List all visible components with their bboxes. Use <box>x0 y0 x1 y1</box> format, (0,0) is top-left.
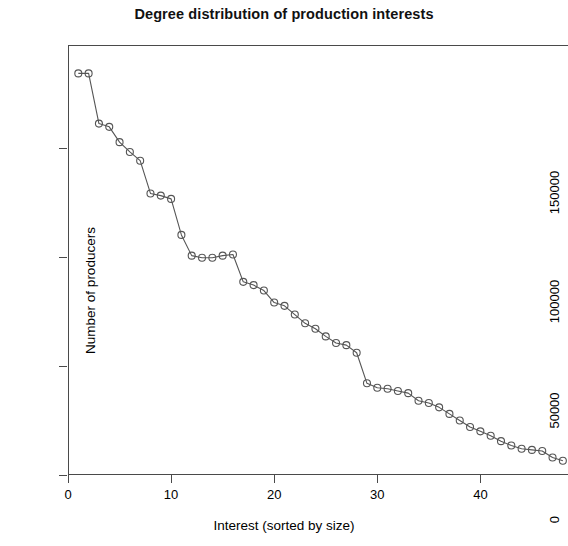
x-tick-mark <box>68 475 69 483</box>
x-tick-mark <box>480 475 481 483</box>
y-tick-label: 0 <box>547 475 562 546</box>
y-tick-mark <box>59 257 67 258</box>
x-tick-label: 0 <box>48 487 88 502</box>
y-tick-mark <box>59 148 67 149</box>
series-polyline <box>78 73 563 460</box>
y-tick-label: 150000 <box>547 147 562 237</box>
chart-title: Degree distribution of production intere… <box>0 6 568 22</box>
y-tick-label: 50000 <box>547 365 562 455</box>
plot-area: 050000100000150000 010203040 Number of p… <box>68 45 568 475</box>
x-axis-label: Interest (sorted by size) <box>0 518 568 533</box>
y-tick-label: 100000 <box>547 256 562 346</box>
x-tick-mark <box>274 475 275 483</box>
data-series-line <box>68 45 568 475</box>
series-markers <box>75 70 567 464</box>
x-tick-label: 30 <box>357 487 397 502</box>
x-tick-label: 10 <box>151 487 191 502</box>
y-tick-mark <box>59 366 67 367</box>
x-tick-mark <box>377 475 378 483</box>
chart-figure: Degree distribution of production intere… <box>0 0 568 546</box>
x-tick-label: 20 <box>254 487 294 502</box>
y-axis-label: Number of producers <box>83 101 98 481</box>
x-tick-label: 40 <box>460 487 500 502</box>
y-tick-mark <box>59 475 67 476</box>
x-tick-mark <box>171 475 172 483</box>
